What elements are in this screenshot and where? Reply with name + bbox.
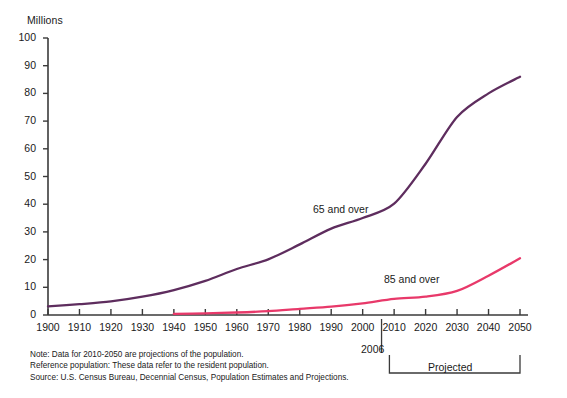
series-line-85-and-over <box>174 258 520 314</box>
y-axis-tick-label: 80 <box>8 86 36 98</box>
axis-group <box>43 38 528 315</box>
footnote-reference: Reference population: These data refer t… <box>30 360 349 371</box>
footnote-note: Note: Data for 2010-2050 are projections… <box>30 349 349 360</box>
y-axis-tick-label: 0 <box>8 308 36 320</box>
projected-bracket-label: Projected <box>428 361 472 373</box>
y-axis-tick-label: 60 <box>8 142 36 154</box>
y-axis-tick-label: 30 <box>8 225 36 237</box>
y-axis-tick-label: 90 <box>8 59 36 71</box>
y-axis-tick-label: 20 <box>8 253 36 265</box>
series-line-65-and-over <box>48 77 520 307</box>
x-axis-tick-label: 2050 <box>500 321 540 333</box>
y-axis-tick-label: 10 <box>8 280 36 292</box>
footnotes-block: Note: Data for 2010-2050 are projections… <box>30 349 349 383</box>
y-axis-tick-label: 70 <box>8 114 36 126</box>
series-group <box>48 77 520 314</box>
series-label-65-and-over: 65 and over <box>313 203 368 215</box>
y-axis-tick-label: 50 <box>8 170 36 182</box>
divider-year-label: 2006 <box>361 343 384 355</box>
y-axis-tick-label: 100 <box>8 31 36 43</box>
series-label-85-and-over: 85 and over <box>384 273 439 285</box>
footnote-source: Source: U.S. Census Bureau, Decennial Ce… <box>30 372 349 383</box>
y-axis-tick-label: 40 <box>8 197 36 209</box>
chart-page: Millions 1009080706050403020100 19001910… <box>0 0 567 398</box>
chart-canvas <box>0 0 567 398</box>
